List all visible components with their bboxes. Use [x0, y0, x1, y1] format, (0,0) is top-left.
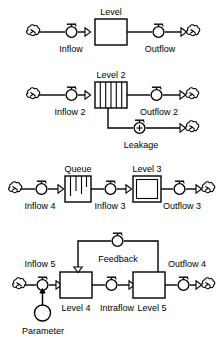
stock-label-level2: Level 2 [96, 70, 125, 80]
inflow2-arrowhead-icon [85, 91, 91, 99]
stock-label-level3: Level 3 [132, 164, 161, 174]
inflow3-arrowhead-icon [126, 185, 132, 193]
outflow4-arrowhead-icon [196, 281, 202, 289]
source-cloud-icon [13, 278, 26, 289]
inflow3-label: Inflow 3 [94, 201, 125, 211]
inflow-arrowhead-icon [85, 28, 91, 36]
inflow2-label: Inflow 2 [54, 107, 85, 117]
outflow-valve-icon[interactable] [153, 24, 164, 37]
diagram-2-level-with-leakage: Level 2 Inflow 2 Outflow 2 Leakage [27, 70, 199, 150]
inflow-label: Inflow [59, 44, 83, 54]
queue-label: Queue [64, 164, 91, 174]
queue-box[interactable] [65, 176, 91, 202]
outflow2-arrowhead-icon [180, 91, 186, 99]
outflow-arrowhead-icon [181, 28, 187, 36]
intraflow-valve-icon[interactable] [106, 277, 117, 290]
stock-box-level2-striped[interactable] [95, 82, 127, 108]
outflow2-label: Outflow 2 [140, 107, 178, 117]
stock-flow-diagram-sheet: Level Inflow Outflow [0, 0, 221, 338]
sink-cloud-icon [202, 278, 215, 289]
intraflow-label: Intraflow [100, 303, 135, 313]
inflow2-valve-icon[interactable] [66, 87, 77, 100]
leakage-sink-cloud-icon [186, 121, 199, 132]
sink-cloud-icon [186, 88, 199, 99]
parameter-circle-icon[interactable] [35, 305, 51, 321]
stock-box-level[interactable] [95, 19, 127, 45]
outflow3-label: Outflow 3 [163, 201, 201, 211]
feedback-label: Feedback [98, 254, 138, 264]
inflow-valve-icon[interactable] [66, 24, 77, 37]
inflow4-arrowhead-icon [58, 185, 64, 193]
inflow5-label: Inflow 5 [24, 259, 55, 269]
sink-cloud-icon [202, 182, 215, 193]
feedback-valve-icon[interactable] [112, 233, 123, 246]
stock-label-level: Level [100, 7, 122, 17]
source-cloud-icon [27, 25, 40, 36]
outflow2-valve-icon[interactable] [151, 87, 162, 100]
flow-pipe-stock-to-leakage [108, 108, 133, 128]
diagram-1-simple-level: Level Inflow Outflow [27, 7, 200, 54]
source-cloud-icon [27, 88, 40, 99]
stock-box-level5[interactable] [133, 272, 165, 298]
diagram-canvas: Level Inflow Outflow [0, 0, 221, 338]
inflow3-valve-icon[interactable] [105, 181, 116, 194]
outflow4-label: Outflow 4 [168, 259, 206, 269]
sink-cloud-icon [187, 25, 200, 36]
outflow3-arrowhead-icon [196, 185, 202, 193]
stock-box-level3-double[interactable] [133, 176, 161, 202]
outflow4-valve-icon[interactable] [178, 277, 189, 290]
inflow4-valve-icon[interactable] [36, 181, 47, 194]
stock-box-level4[interactable] [60, 272, 92, 298]
outflow3-valve-icon[interactable] [174, 181, 185, 194]
inflow4-label: Inflow 4 [24, 201, 55, 211]
leakage-label: Leakage [124, 140, 159, 150]
stock-label-level4: Level 4 [61, 303, 90, 313]
parameter-label: Parameter [22, 326, 64, 336]
diagram-4-feedback-loop: Inflow 5 Feedback Outflow 4 Level 4 Intr… [13, 233, 215, 336]
leakage-arrowhead-icon [180, 124, 186, 132]
leakage-valve-plus-icon[interactable] [134, 120, 145, 133]
stock-label-level5: Level 5 [137, 303, 166, 313]
outflow-label: Outflow [145, 44, 176, 54]
source-cloud-icon [9, 182, 22, 193]
diagram-3-queue-and-level: Queue Level 3 Inflow 4 Inflow 3 Outflow … [9, 164, 215, 211]
